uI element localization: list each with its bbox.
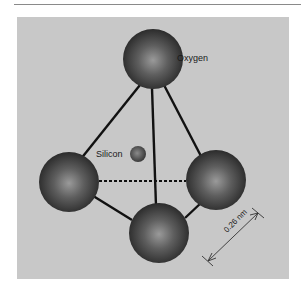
oxygen-atom-right: [186, 150, 246, 210]
silicon-label: Silicon: [96, 149, 123, 159]
oxygen-atom-left: [39, 152, 99, 212]
oxygen-atom-bottom: [129, 203, 189, 263]
oxygen-label: Oxygen: [177, 53, 208, 63]
tetrahedron-diagram: [0, 0, 301, 292]
oxygen-atom-top: [123, 29, 183, 89]
silicon-atom: [130, 146, 146, 162]
